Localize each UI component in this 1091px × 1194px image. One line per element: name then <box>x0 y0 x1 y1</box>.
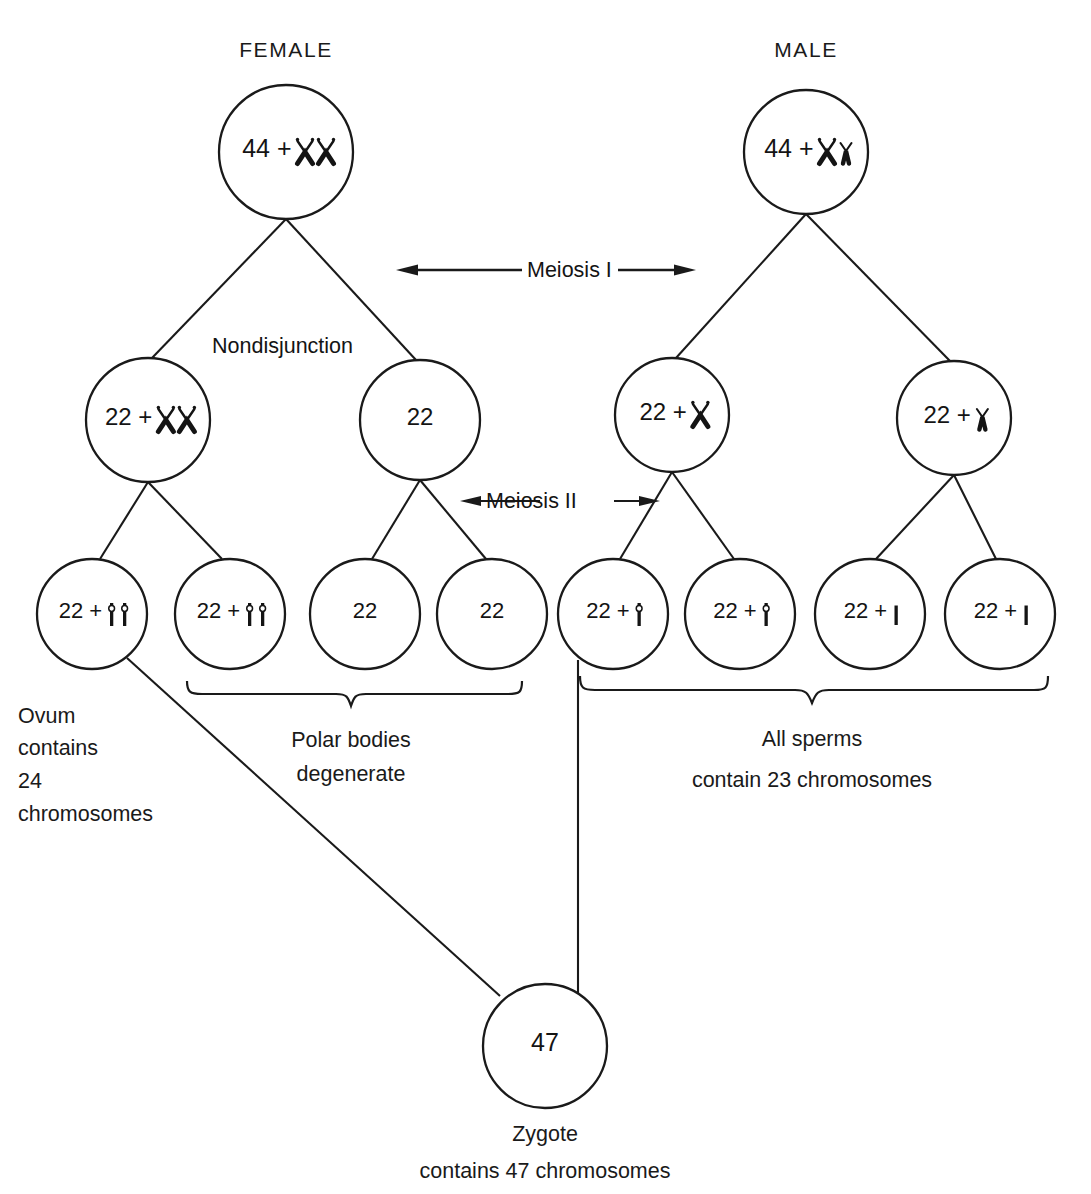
cell-label: 22 <box>480 598 505 624</box>
brace-sperms <box>580 676 1048 703</box>
caption-polar-bodies-line-1: degenerate <box>236 762 466 787</box>
nondisjunction-label: Nondisjunction <box>212 334 353 359</box>
brace-polar-bodies <box>187 681 522 706</box>
cell-label: 22 <box>353 598 378 624</box>
fork-spermatocyte-y-meiosis2 <box>876 475 996 559</box>
cell-label: 22 + <box>580 598 629 624</box>
caption-sperms-line-0: All sperms <box>692 727 932 752</box>
caption-ovum-line-2: 24 <box>18 769 42 794</box>
meiosis-2-label: Meiosis II <box>486 489 577 514</box>
cell-label: 22 + <box>191 598 240 624</box>
cell-circles <box>37 85 1055 1108</box>
zygote-label: 47 <box>495 1028 595 1057</box>
cell-label: 22 + <box>917 401 971 429</box>
caption-ovum-line-3: chromosomes <box>18 802 153 827</box>
fertilization-line-ovum <box>127 658 500 996</box>
caption-sperms-line-1: contain 23 chromosomes <box>672 768 952 793</box>
meiosis-1-label: Meiosis I <box>527 258 612 283</box>
fork-male-meiosis1 <box>676 214 950 361</box>
caption-polar-bodies-line-0: Polar bodies <box>236 728 466 753</box>
cell-label: 22 + <box>53 598 102 624</box>
fork-oocyte-meiosis2 <box>372 480 486 559</box>
header-female: FEMALE <box>186 38 386 62</box>
cell-label: 22 + <box>968 598 1017 624</box>
cell-label: 44 + <box>758 134 814 163</box>
cell-label: 44 + <box>236 134 292 163</box>
caption-ovum-line-0: Ovum <box>18 704 75 729</box>
meiosis-nondisjunction-diagram <box>0 0 1091 1194</box>
fork-oocyte-xx-meiosis2 <box>100 482 222 559</box>
header-male: MALE <box>706 38 906 62</box>
cell-label: 22 + <box>633 398 687 426</box>
fork-spermatocyte-x-meiosis2 <box>620 472 734 559</box>
caption-ovum-line-1: contains <box>18 736 98 761</box>
chromosome-glyphs <box>109 138 1026 626</box>
caption-zygote-line-1: contains 47 chromosomes <box>395 1159 695 1184</box>
fertilization-line-sperm <box>578 660 580 1003</box>
cell-label: 22 + <box>707 598 756 624</box>
cell-label: 22 <box>407 403 434 431</box>
cell-label: 22 + <box>99 403 153 431</box>
cell-label: 22 + <box>838 598 887 624</box>
caption-zygote-line-0: Zygote <box>445 1122 645 1147</box>
